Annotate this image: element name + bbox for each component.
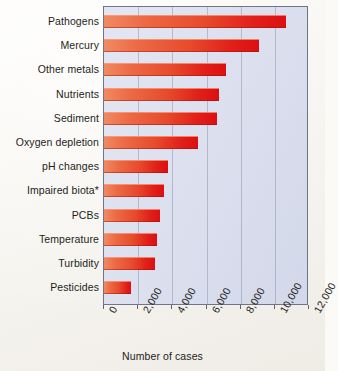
bar bbox=[104, 184, 164, 197]
category-label: Mercury bbox=[0, 39, 99, 51]
bar bbox=[104, 281, 131, 294]
category-label: Pathogens bbox=[0, 15, 99, 27]
gridline bbox=[275, 7, 276, 304]
category-label: Oxygen depletion bbox=[0, 136, 99, 148]
bar bbox=[104, 160, 168, 173]
category-label: pH changes bbox=[0, 160, 99, 172]
x-tick-mark bbox=[171, 305, 172, 309]
category-label: Temperature bbox=[0, 233, 99, 245]
category-label: Turbidity bbox=[0, 257, 99, 269]
x-tick-mark bbox=[308, 305, 309, 309]
category-label: Other metals bbox=[0, 63, 99, 75]
bar bbox=[104, 209, 160, 222]
category-label: Impaired biota* bbox=[0, 184, 99, 196]
category-label: Pesticides bbox=[0, 281, 99, 293]
category-label: Nutrients bbox=[0, 88, 99, 100]
bar bbox=[104, 39, 259, 52]
x-tick-mark bbox=[206, 305, 207, 309]
bar bbox=[104, 63, 226, 76]
x-tick-mark bbox=[103, 305, 104, 309]
bar bbox=[104, 233, 157, 246]
x-tick-mark bbox=[137, 305, 138, 309]
category-label: Sediment bbox=[0, 112, 99, 124]
bar bbox=[104, 112, 217, 125]
bar bbox=[104, 88, 219, 101]
plot-area bbox=[103, 6, 308, 305]
x-tick-mark bbox=[240, 305, 241, 309]
x-tick-label: 0 bbox=[106, 304, 119, 315]
x-tick-label: 12,000 bbox=[311, 280, 338, 315]
x-tick-mark bbox=[274, 305, 275, 309]
category-label: PCBs bbox=[0, 209, 99, 221]
x-axis-title: Number of cases bbox=[0, 350, 325, 362]
bar bbox=[104, 136, 198, 149]
bar bbox=[104, 257, 155, 270]
bar bbox=[104, 15, 286, 28]
